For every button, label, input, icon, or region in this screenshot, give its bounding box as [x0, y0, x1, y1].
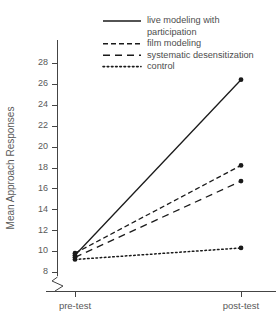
legend-item: control	[103, 61, 175, 71]
y-axis-group	[52, 40, 63, 291]
y-tick-label: 26	[38, 78, 48, 88]
y-tick-label: 12	[38, 225, 48, 235]
series-line	[75, 181, 241, 257]
series-line	[75, 248, 241, 259]
chart-figure: 810121416182022242628 pre-testpost-test …	[0, 0, 279, 315]
line-chart-canvas: 810121416182022242628 pre-testpost-test …	[0, 0, 279, 315]
legend-label: participation	[147, 27, 197, 37]
data-point-marker	[239, 163, 244, 168]
y-tick-label: 8	[43, 266, 48, 276]
y-axis-break-icon	[52, 277, 63, 291]
data-point-marker	[73, 251, 78, 256]
legend-item: systematic desensitization	[103, 50, 254, 60]
data-point-marker	[239, 246, 244, 251]
legend-label: film modeling	[147, 38, 201, 48]
legend-label: systematic desensitization	[147, 50, 254, 60]
legend-label: live modeling with	[147, 15, 220, 25]
y-tick-label: 20	[38, 141, 48, 151]
y-tick-label: 24	[38, 99, 48, 109]
chart-legend: live modeling withparticipationfilm mode…	[103, 15, 254, 71]
series-group	[73, 77, 244, 262]
series-systematic-desensitization	[73, 179, 244, 260]
series-line	[75, 165, 241, 253]
x-tick-label: pre-test	[59, 300, 92, 311]
data-point-marker	[239, 179, 244, 184]
series-line	[75, 80, 241, 256]
series-control	[73, 246, 244, 262]
y-tick-group: 810121416182022242628	[38, 57, 58, 276]
legend-label: control	[147, 61, 175, 71]
data-point-marker	[239, 77, 244, 82]
y-tick-label: 10	[38, 245, 48, 255]
series-film-modeling	[73, 163, 244, 256]
data-point-marker	[73, 257, 78, 262]
x-tick-label: post-test	[223, 300, 260, 311]
x-tick-group: pre-testpost-test	[59, 292, 260, 312]
y-axis-title: Mean Approach Responses	[5, 107, 16, 230]
y-tick-label: 14	[38, 204, 48, 214]
y-tick-label: 22	[38, 120, 48, 130]
series-live-modeling-with-participation	[73, 77, 244, 257]
legend-item: live modeling withparticipation	[103, 15, 220, 36]
y-tick-label: 16	[38, 183, 48, 193]
y-tick-label: 18	[38, 162, 48, 172]
legend-item: film modeling	[103, 38, 201, 48]
y-tick-label: 28	[38, 57, 48, 67]
